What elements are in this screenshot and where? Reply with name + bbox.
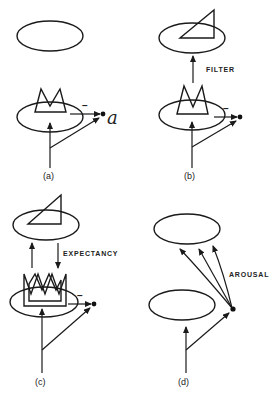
upper-ellipse [17, 21, 83, 51]
branch-arrow [50, 118, 99, 148]
output-label: a [107, 107, 118, 128]
panel-label-b: (b) [184, 171, 195, 181]
panel-b: FILTER – (b) [159, 10, 242, 181]
branch-arrow [42, 308, 90, 350]
arousal-arrow-middle [199, 249, 232, 308]
output-node-dot [92, 302, 97, 307]
inhibition-sign: – [77, 290, 83, 301]
expectancy-label: EXPECTANCY [63, 250, 118, 257]
upper-ellipse [154, 214, 220, 244]
panel-a: – a (a) [17, 21, 118, 181]
triangle-shape-icon [28, 195, 61, 224]
arousal-label: AROUSAL [229, 271, 269, 278]
filter-label: FILTER [206, 66, 235, 73]
inhibition-sign: – [223, 103, 229, 114]
panel-label-c: (c) [35, 377, 46, 387]
arousal-node-dot [230, 306, 235, 311]
panel-c: EXPECTANCY – (c) [10, 195, 118, 387]
inhibition-sign: – [82, 100, 88, 111]
upper-ellipse [13, 210, 79, 240]
lower-ellipse [149, 290, 215, 320]
panel-label-d: (d) [178, 377, 189, 387]
panel-d: AROUSAL (d) [149, 214, 269, 387]
m-shape-icon [35, 89, 66, 112]
attention-models-diagram: – a (a) FILTER – (b) EXPECTANCY – [0, 0, 274, 393]
output-node-dot [238, 115, 243, 120]
branch-arrow [186, 313, 229, 350]
output-node-dot [101, 112, 106, 117]
panel-label-a: (a) [43, 171, 54, 181]
branch-arrow [192, 121, 236, 147]
